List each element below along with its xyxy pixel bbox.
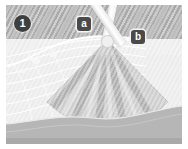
marker-b: b <box>131 30 145 44</box>
marker-a: a <box>77 17 91 31</box>
instrument-tip-junction <box>101 35 114 48</box>
illustration-canvas: 1 a b <box>6 5 182 144</box>
bottom-tissue-band <box>6 102 182 144</box>
step-number-badge: 1 <box>14 15 31 32</box>
figure-panel: 1 a b <box>0 0 188 149</box>
